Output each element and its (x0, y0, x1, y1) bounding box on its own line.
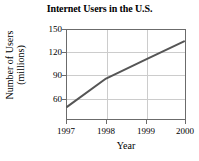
y-tick-label-120: 120 (40, 48, 62, 57)
y-axis-title-line1: Number of Users (4, 31, 15, 100)
y-tick-label-150: 150 (40, 25, 62, 34)
x-tick-mark-1998 (106, 120, 107, 124)
data-line-svg (67, 30, 185, 119)
chart-figure: Internet Users in the U.S. Number of Use… (0, 0, 199, 161)
y-axis-tick-labels: 150 120 90 60 (40, 0, 62, 161)
data-series-line (67, 41, 184, 107)
x-tick-mark-1999 (146, 120, 147, 124)
y-axis-title-line2: (millions) (15, 5, 26, 125)
x-axis-title: Year (66, 140, 186, 151)
x-tick-label-1999: 1999 (129, 126, 163, 136)
plot-area (66, 29, 186, 120)
x-tick-label-1997: 1997 (49, 126, 83, 136)
x-tick-label-2000: 2000 (168, 126, 199, 136)
y-axis-title: Number of Users (millions) (4, 5, 26, 125)
y-tick-label-60: 60 (40, 95, 62, 104)
x-tick-mark-2000 (185, 120, 186, 124)
x-tick-mark-1997 (66, 120, 67, 124)
chart-title: Internet Users in the U.S. (0, 3, 199, 14)
x-tick-label-1998: 1998 (89, 126, 123, 136)
y-tick-label-90: 90 (40, 71, 62, 80)
